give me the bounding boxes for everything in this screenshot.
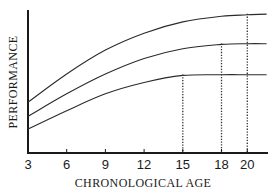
y-axis-label: PERFORMANCE <box>6 35 20 128</box>
x-tick-label: 9 <box>102 157 109 172</box>
lower-curve <box>28 75 267 129</box>
plateau-drop-lines <box>183 14 248 153</box>
x-axis-label: CHRONOLOGICAL AGE <box>75 176 212 190</box>
x-tick-label: 15 <box>176 157 190 172</box>
x-tick-label: 12 <box>137 157 151 172</box>
upper-curve <box>28 14 267 102</box>
x-tick-label: 20 <box>240 157 254 172</box>
x-tick-label: 18 <box>214 157 228 172</box>
x-tick-label: 3 <box>24 157 31 172</box>
x-tick-label: 6 <box>63 157 70 172</box>
middle-curve <box>28 44 267 117</box>
performance-age-chart: 36912151820 CHRONOLOGICAL AGE PERFORMANC… <box>0 0 278 193</box>
